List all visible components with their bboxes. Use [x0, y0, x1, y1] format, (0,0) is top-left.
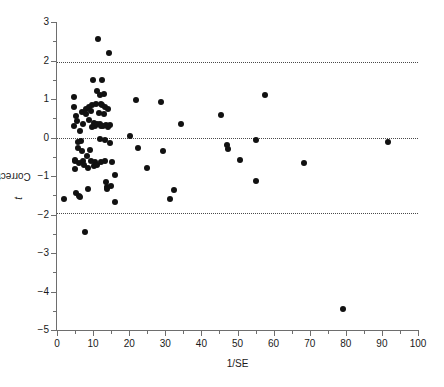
scatter-point — [133, 97, 139, 103]
y-tick-label: 0 — [43, 133, 49, 143]
y-tick-label: −3 — [38, 248, 49, 258]
scatter-point — [237, 157, 243, 163]
x-tick-major — [165, 331, 166, 336]
y-tick-major — [51, 215, 57, 216]
scatter-point — [85, 165, 91, 171]
y-tick-label: 2 — [43, 56, 49, 66]
scatter-point — [218, 112, 224, 118]
x-tick-minor — [364, 331, 365, 334]
scatter-point — [101, 91, 107, 97]
scatter-point — [225, 146, 231, 152]
x-tick-minor — [400, 331, 401, 334]
galbraith-scatter-figure: Corrected-t −5−4−3−2−10123 0102030405060… — [0, 0, 444, 387]
scatter-point — [112, 172, 118, 178]
scatter-point — [85, 186, 91, 192]
x-tick-major — [310, 331, 311, 336]
scatter-point — [82, 229, 88, 235]
x-tick-major — [129, 331, 130, 336]
scatter-point — [144, 165, 150, 171]
x-tick-label: 50 — [232, 339, 243, 349]
x-tick-label: 100 — [410, 339, 427, 349]
y-axis-title-prefix: Corrected- — [0, 171, 31, 182]
x-tick-major — [238, 331, 239, 336]
x-tick-label: 90 — [376, 339, 387, 349]
x-tick-minor — [75, 331, 76, 334]
x-tick-major — [382, 331, 383, 336]
x-tick-label: 40 — [196, 339, 207, 349]
scatter-point — [87, 147, 93, 153]
scatter-point — [77, 194, 83, 200]
x-tick-major — [274, 331, 275, 336]
scatter-point — [171, 187, 177, 193]
x-tick-label: 30 — [160, 339, 171, 349]
scatter-point — [301, 160, 307, 166]
x-tick-minor — [328, 331, 329, 334]
y-tick-minor — [53, 311, 57, 312]
y-axis-title-italic: t — [13, 197, 24, 200]
y-tick-minor — [53, 118, 57, 119]
scatter-point — [112, 199, 118, 205]
x-tick-minor — [111, 331, 112, 334]
scatter-point — [160, 148, 166, 154]
x-tick-major — [57, 331, 58, 336]
x-tick-label: 70 — [304, 339, 315, 349]
x-tick-label: 80 — [340, 339, 351, 349]
scatter-point — [107, 140, 113, 146]
y-tick-label: −5 — [38, 325, 49, 335]
y-tick-major — [51, 253, 57, 254]
x-tick-label: 60 — [268, 339, 279, 349]
y-tick-minor — [53, 272, 57, 273]
y-tick-minor — [53, 195, 57, 196]
y-tick-label: 1 — [43, 94, 49, 104]
y-tick-minor — [53, 234, 57, 235]
scatter-point — [95, 36, 101, 42]
scatter-point — [105, 106, 111, 112]
scatter-point — [262, 92, 268, 98]
scatter-point — [178, 121, 184, 127]
scatter-point — [127, 133, 133, 139]
scatter-point — [109, 159, 115, 165]
x-axis-title: 1/SE — [57, 358, 418, 369]
plot-area: −5−4−3−2−10123 0102030405060708090100 — [57, 22, 418, 330]
x-tick-major — [346, 331, 347, 336]
scatter-point — [385, 139, 391, 145]
y-tick-label: −4 — [38, 287, 49, 297]
y-tick-major — [51, 22, 57, 23]
y-tick-minor — [53, 80, 57, 81]
scatter-point — [80, 121, 86, 127]
y-tick-label: −2 — [38, 210, 49, 220]
scatter-point — [158, 99, 164, 105]
scatter-point — [106, 50, 112, 56]
y-tick-label: −1 — [38, 171, 49, 181]
scatter-point — [108, 183, 114, 189]
x-tick-major — [418, 331, 419, 336]
scatter-point — [71, 94, 77, 100]
x-tick-major — [93, 331, 94, 336]
scatter-point — [135, 145, 141, 151]
x-tick-label: 20 — [124, 339, 135, 349]
x-tick-minor — [183, 331, 184, 334]
x-tick-minor — [219, 331, 220, 334]
scatter-point — [253, 178, 259, 184]
y-axis-title: Corrected-t — [6, 22, 20, 330]
reference-line — [57, 62, 418, 63]
y-tick-label: 3 — [43, 17, 49, 27]
scatter-point — [102, 158, 108, 164]
scatter-point — [107, 122, 113, 128]
scatter-point — [253, 137, 259, 143]
scatter-point — [77, 128, 83, 134]
reference-line — [57, 138, 418, 139]
x-tick-major — [201, 331, 202, 336]
x-tick-label: 0 — [54, 339, 60, 349]
scatter-point — [61, 196, 67, 202]
x-tick-minor — [256, 331, 257, 334]
y-tick-major — [51, 99, 57, 100]
scatter-point — [72, 166, 78, 172]
scatter-point — [99, 77, 105, 83]
scatter-point — [88, 108, 94, 114]
scatter-point — [78, 138, 84, 144]
scatter-point — [71, 104, 77, 110]
x-tick-minor — [292, 331, 293, 334]
y-tick-major — [51, 176, 57, 177]
y-tick-minor — [53, 157, 57, 158]
